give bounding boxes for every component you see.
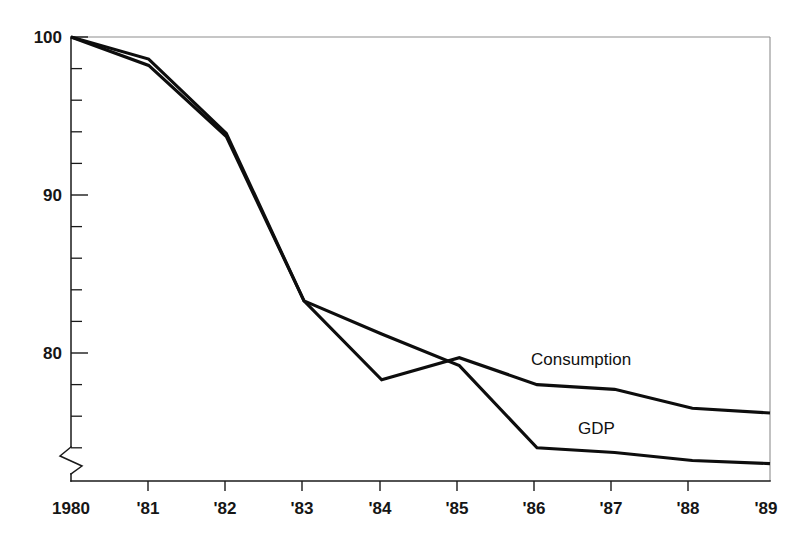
chart-figure: 100 90 80 1980 '81 '82 '83 '84 '85 '86 '… xyxy=(0,0,801,539)
y-axis-label-80: 80 xyxy=(43,344,62,363)
data-line-consumption xyxy=(71,37,770,413)
y-axis-label-90: 90 xyxy=(43,186,62,205)
x-axis-label-1981: '81 xyxy=(137,499,160,518)
x-axis-label-1987: '87 xyxy=(600,499,623,518)
x-axis-label-1988: '88 xyxy=(677,499,700,518)
x-axis-label-1986: '86 xyxy=(523,499,546,518)
x-axis-label-1989: '89 xyxy=(755,499,778,518)
x-axis-label-1985: '85 xyxy=(446,499,469,518)
line-chart: 100 90 80 1980 '81 '82 '83 '84 '85 '86 '… xyxy=(0,0,801,539)
data-line-gdp xyxy=(71,37,770,464)
series-label-gdp: GDP xyxy=(578,419,615,438)
x-axis-label-1980: 1980 xyxy=(52,499,90,518)
y-axis-label-100: 100 xyxy=(34,28,62,47)
series-label-consumption: Consumption xyxy=(531,350,631,369)
x-axis-label-1983: '83 xyxy=(291,499,314,518)
x-axis-label-1984: '84 xyxy=(369,499,392,518)
y-axis-break-zigzag xyxy=(60,447,82,474)
x-axis-label-1982: '82 xyxy=(214,499,237,518)
